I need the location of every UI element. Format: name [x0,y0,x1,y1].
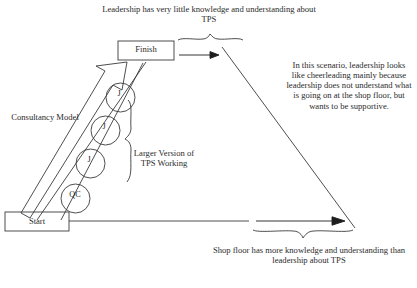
start-box-label: Start [5,216,69,226]
node-label-1: J [107,89,131,98]
diagram-canvas: Leadership has very little knowledge and… [0,0,417,288]
label-consultancy-model: Consultancy Model [8,112,82,122]
finish-box-label: Finish [118,44,174,54]
brace-top [178,34,243,40]
caption-shop-floor-knowledge: Shop floor has more knowledge and unders… [205,245,413,265]
arrow-bottom-head [332,217,345,225]
label-larger-version-tps: Larger Version of TPS Working [133,148,195,168]
caption-leadership-knowledge: Leadership has very little knowledge and… [96,4,322,24]
node-label-2: J [92,122,116,131]
caption-scenario-description: In this scenario, leadership looks like … [286,60,412,111]
node-label-3: J [77,155,101,164]
arrow-top-head [210,52,219,59]
node-label-4: QC [62,190,88,199]
brace-larger-version [125,100,131,182]
brace-bottom [253,230,353,238]
